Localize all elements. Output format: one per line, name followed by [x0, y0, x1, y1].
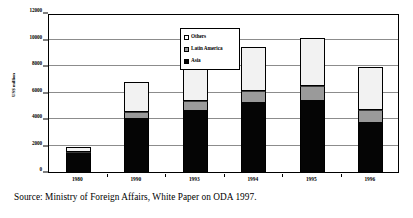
bar-segment-asia[interactable]	[300, 100, 325, 172]
bar-stack[interactable]	[183, 67, 208, 172]
y-axis-tick-label: 4000	[32, 115, 42, 120]
y-axis-tick-label: 12000	[30, 9, 42, 14]
gridline	[49, 92, 398, 93]
bar-segment-latin-america[interactable]	[241, 91, 266, 102]
y-axis-tick-label: 10000	[30, 35, 42, 40]
y-axis-tick-label: 8000	[32, 62, 42, 67]
x-axis: 198019901993199419951996	[48, 174, 399, 186]
x-axis-tick-label: 1994	[247, 177, 258, 182]
bar-segment-asia[interactable]	[66, 153, 91, 172]
legend-item-asia[interactable]: Asia	[183, 55, 237, 67]
legend-item-others[interactable]: Others	[183, 31, 237, 43]
y-axis-tick-label: 6000	[32, 88, 42, 93]
bar-segment-others[interactable]	[124, 82, 149, 112]
bar-stack[interactable]	[300, 38, 325, 172]
bar-segment-latin-america[interactable]	[124, 112, 149, 117]
x-axis-tick-label: 1996	[364, 177, 375, 182]
bar-stack[interactable]	[241, 47, 266, 172]
x-axis-tick-mark	[282, 174, 283, 177]
square-white-icon	[184, 35, 189, 40]
bar-segment-asia[interactable]	[358, 122, 383, 172]
bar-segment-asia[interactable]	[124, 118, 149, 172]
bar-segment-asia[interactable]	[241, 102, 266, 172]
bar-segment-latin-america[interactable]	[183, 101, 208, 110]
bar-stack[interactable]	[66, 147, 91, 172]
x-axis-tick-label: 1990	[130, 177, 141, 182]
bar-segment-latin-america[interactable]	[300, 86, 325, 101]
x-axis-tick-label: 1995	[306, 177, 317, 182]
plot-area: Others Latin America Asia	[48, 14, 399, 173]
chart-figure: 020004000600080001000012000 US$ million …	[0, 0, 413, 218]
x-axis-tick-mark	[165, 174, 166, 177]
source-caption: Source: Ministry of Foreign Affairs, Whi…	[14, 192, 257, 202]
y-axis-tick-label: 2000	[32, 141, 42, 146]
bar-stack[interactable]	[358, 67, 383, 172]
legend: Others Latin America Asia	[180, 28, 240, 70]
bar-segment-others[interactable]	[183, 67, 208, 101]
bar-stack[interactable]	[124, 82, 149, 172]
square-black-icon	[184, 59, 189, 64]
bar-segment-others[interactable]	[241, 47, 266, 91]
x-axis-tick-mark	[224, 174, 225, 177]
bar-segment-latin-america[interactable]	[358, 110, 383, 122]
legend-item-latin-america[interactable]: Latin America	[183, 43, 237, 55]
bar-segment-asia[interactable]	[183, 110, 208, 172]
gridline	[49, 145, 398, 146]
legend-item-label: Asia	[191, 58, 201, 63]
bar-segment-others[interactable]	[300, 38, 325, 86]
x-axis-tick-mark	[341, 174, 342, 177]
bar-segment-others[interactable]	[66, 147, 91, 152]
x-axis-tick-mark	[107, 174, 108, 177]
y-axis: 020004000600080001000012000	[0, 14, 48, 173]
x-axis-tick-label: 1993	[189, 177, 200, 182]
x-axis-tick-label: 1980	[72, 177, 83, 182]
y-axis-tick-label: 0	[40, 168, 43, 173]
bar-segment-others[interactable]	[358, 67, 383, 111]
gridline	[49, 118, 398, 119]
legend-item-label: Latin America	[191, 46, 222, 51]
legend-item-label: Others	[191, 34, 206, 39]
square-gray-icon	[184, 47, 189, 52]
bar-segment-latin-america[interactable]	[66, 152, 91, 153]
y-axis-title: US$ million	[11, 59, 21, 111]
